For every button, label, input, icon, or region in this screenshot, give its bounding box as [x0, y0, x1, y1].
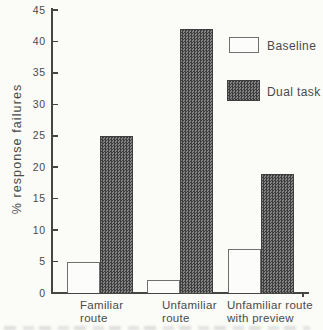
legend-baseline-swatch: [229, 37, 259, 53]
y-tick-label-25: 25: [18, 129, 46, 141]
x-axis-label-line: with preview: [227, 312, 313, 325]
x-axis-label-line: Unfamiliar route: [227, 299, 313, 312]
y-tick-label-45: 45: [18, 4, 46, 16]
y-tick-label-20: 20: [18, 161, 46, 173]
y-tick-10: [52, 229, 58, 231]
x-axis-end-tick: [302, 293, 304, 297]
bar-dual-task-unfamiliar-route: [180, 29, 213, 293]
y-tick-5: [52, 261, 58, 263]
y-tick-label-0: 0: [18, 287, 46, 299]
bar-baseline-unfamiliar-route-with-preview: [228, 249, 261, 293]
y-axis-line: [51, 8, 53, 293]
y-tick-label-40: 40: [18, 35, 46, 47]
y-tick-45: [52, 9, 58, 11]
x-axis-label-line: Familiar: [80, 299, 123, 312]
y-tick-label-5: 5: [18, 255, 46, 267]
y-tick-0: [52, 292, 58, 294]
cropped-caption-remnant: [4, 326, 310, 330]
x-axis-label-line: route: [80, 312, 123, 325]
y-tick-label-15: 15: [18, 192, 46, 204]
y-tick-15: [52, 198, 58, 200]
y-tick-20: [52, 166, 58, 168]
y-tick-25: [52, 135, 58, 137]
y-tick-35: [52, 72, 58, 74]
y-tick-label-35: 35: [18, 66, 46, 78]
y-tick-label-10: 10: [18, 224, 46, 236]
bar-baseline-unfamiliar-route: [147, 280, 180, 293]
bar-dual-task-unfamiliar-route-with-preview: [261, 174, 294, 293]
bar-chart-figure: % response failures 051015202530354045 F…: [0, 0, 323, 330]
x-axis-label-unfamiliar-route: Unfamiliarroute: [162, 299, 217, 325]
y-tick-label-30: 30: [18, 98, 46, 110]
legend-dual-task-swatch: [227, 80, 260, 101]
legend-dual-task-label: Dual task: [267, 85, 321, 99]
x-axis-label-unfamiliar-route-with-preview: Unfamiliar routewith preview: [227, 299, 313, 325]
x-axis-label-familiar-route: Familiarroute: [80, 299, 123, 325]
legend-baseline-label: Baseline: [267, 39, 316, 53]
y-tick-30: [52, 104, 58, 106]
x-axis-label-line: route: [162, 312, 217, 325]
bar-dual-task-familiar-route: [100, 136, 133, 293]
x-axis-label-line: Unfamiliar: [162, 299, 217, 312]
bar-baseline-familiar-route: [67, 262, 100, 293]
y-tick-40: [52, 41, 58, 43]
